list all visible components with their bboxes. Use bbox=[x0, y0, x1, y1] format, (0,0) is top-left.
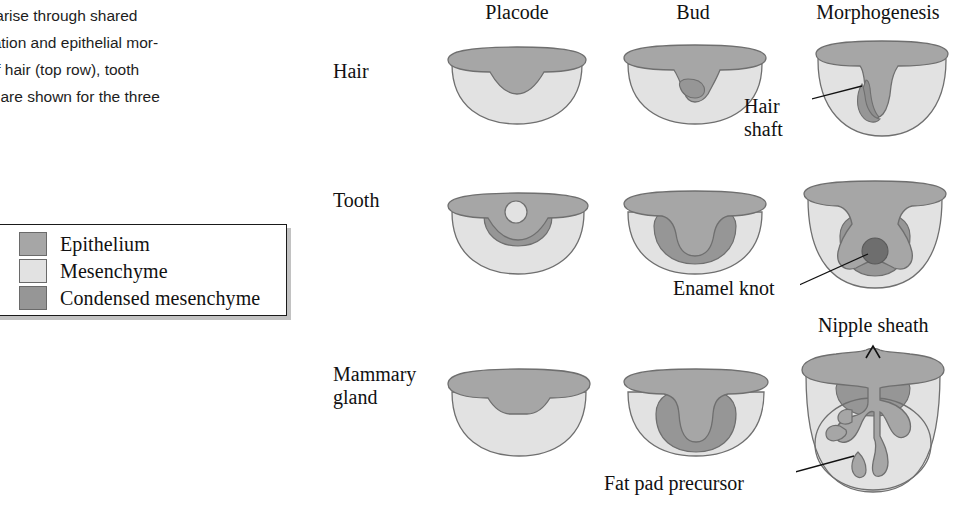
legend-label-condensed-mesenchyme: Condensed mesenchyme bbox=[60, 287, 260, 310]
column-header-morphogenesis: Morphogenesis bbox=[800, 1, 956, 24]
column-header-placode: Placode bbox=[452, 1, 582, 24]
enamel-knot-primordium bbox=[505, 201, 527, 223]
legend-item-condensed-mesenchyme: Condensed mesenchyme bbox=[19, 285, 260, 311]
row-label-mammary-gland: Mammary gland bbox=[333, 363, 416, 409]
legend-item-mesenchyme: Mesenchyme bbox=[19, 258, 168, 284]
duct-branch-upper-left bbox=[838, 409, 852, 424]
diagram-mammary-placode bbox=[444, 352, 594, 462]
legend-label-mesenchyme: Mesenchyme bbox=[60, 260, 168, 283]
figure-caption: ges arise through shared sification and … bbox=[0, 2, 296, 137]
caption-line-1: ges arise through shared bbox=[0, 7, 137, 24]
diagram-mammary-morphogenesis bbox=[796, 340, 950, 500]
row-label-hair: Hair bbox=[333, 60, 369, 83]
figure-canvas: ges arise through shared sification and … bbox=[0, 0, 956, 508]
legend-item-epithelium: Epithelium bbox=[19, 231, 150, 257]
annotation-enamel-knot: Enamel knot bbox=[673, 277, 775, 300]
diagram-tooth-bud bbox=[620, 172, 770, 278]
annotation-nipple-sheath: Nipple sheath bbox=[818, 314, 929, 337]
caption-line-2: sification and epithelial mor- bbox=[0, 34, 158, 51]
caption-line-4: row) are shown for the three bbox=[0, 88, 160, 105]
legend-label-epithelium: Epithelium bbox=[60, 233, 150, 256]
annotation-fat-pad-precursor: Fat pad precursor bbox=[604, 472, 744, 495]
annotation-hair-shaft: Hair shaft bbox=[744, 95, 783, 141]
diagram-tooth-morphogenesis bbox=[800, 166, 950, 294]
diagram-hair-placode bbox=[444, 24, 590, 128]
diagram-hair-morphogenesis bbox=[812, 24, 952, 144]
diagram-mammary-bud bbox=[620, 352, 772, 462]
legend-swatch-mesenchyme bbox=[19, 259, 47, 283]
legend-swatch-condensed-mesenchyme bbox=[19, 286, 47, 310]
legend-box: Epithelium Mesenchyme Condensed mesenchy… bbox=[0, 224, 287, 316]
diagram-tooth-placode bbox=[444, 172, 592, 278]
column-header-bud: Bud bbox=[628, 1, 758, 24]
caption-line-3: na of hair (top row), tooth bbox=[0, 61, 139, 78]
row-label-tooth: Tooth bbox=[333, 189, 379, 212]
enamel-knot bbox=[862, 238, 888, 264]
legend-swatch-epithelium bbox=[19, 232, 47, 256]
